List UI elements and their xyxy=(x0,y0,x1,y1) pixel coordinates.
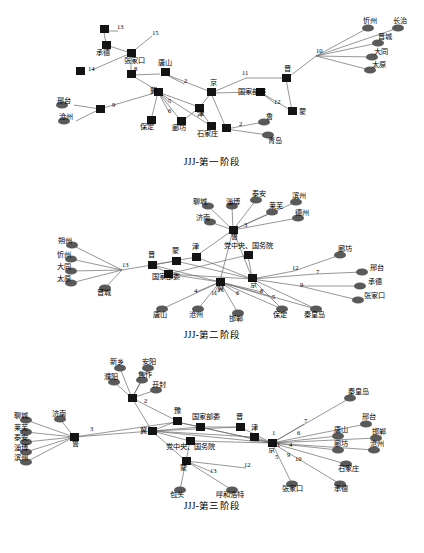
node-label: 石家庄 xyxy=(338,466,359,473)
node-label: 邢台 xyxy=(57,98,71,105)
node-label: 国家部委 xyxy=(238,89,266,96)
node-label: 秦皇岛 xyxy=(304,312,325,319)
node-label: 鲁 xyxy=(266,114,273,121)
edge-label: 2 xyxy=(184,78,187,85)
node-label: 淄博 xyxy=(14,445,28,452)
node-label: 朔州 xyxy=(58,238,72,245)
node-label: 呼和浩特 xyxy=(216,492,244,499)
edge-label: 12 xyxy=(274,99,281,106)
edge-label: 2 xyxy=(144,398,147,405)
figure-root: 承德 13 15 张家口 14 8 唐山 2 冀 5 6 保定 廊坊 石家庄 津… xyxy=(0,0,424,553)
node-label: 张家口 xyxy=(364,293,385,300)
node-label: 蒙 xyxy=(180,465,187,472)
node-label: 聊城 xyxy=(14,413,28,420)
node-label: 廊坊 xyxy=(172,125,186,132)
node-label: 承德 xyxy=(334,486,348,493)
node-label: 新乡 xyxy=(110,359,124,366)
panel-3-canvas: 新乡 安阳 濮阳 焦作 开封 2 秦皇岛 聊城 莱芜 济南 泰安 淄博 滨州 3… xyxy=(0,348,424,498)
edge-label: 9 xyxy=(300,282,303,289)
node-label: 邯郸 xyxy=(372,429,386,436)
node-label: 保定 xyxy=(140,124,154,131)
edge-label: 12 xyxy=(244,462,251,469)
node-label: 安阳 xyxy=(142,359,156,366)
panel-2-canvas: 聊城 淄博 泰安 莱芜 滨州 德州 济南 3 鲁 朔州 忻州 大同 太原 晋城 … xyxy=(0,182,424,327)
node-label: 蒙 xyxy=(172,248,179,255)
edge-label: 12 xyxy=(292,265,299,272)
node-label: 淄博 xyxy=(226,199,240,206)
edge-label: 10 xyxy=(316,48,323,55)
node-label: 京 xyxy=(250,282,257,289)
panel-1-edges xyxy=(74,28,398,135)
node-label: 开封 xyxy=(152,382,166,389)
edge-label: 11 xyxy=(242,70,248,77)
edge-label: 6 xyxy=(297,430,300,437)
node-label: 莱芜 xyxy=(14,425,28,432)
edge-label: 13 xyxy=(117,24,124,31)
node-label: 大同 xyxy=(374,49,388,56)
edge-label: 7 xyxy=(304,418,307,425)
node-label: 滨州 xyxy=(292,193,306,200)
edge-label: 8 xyxy=(260,288,263,295)
node-label: 石家庄 xyxy=(197,131,218,138)
node-label: 晋城 xyxy=(97,290,111,297)
node-label: 沧州 xyxy=(370,441,384,448)
node-label: 晋 xyxy=(148,252,155,259)
node-label: 晋 xyxy=(284,66,291,73)
node-label: 泰安 xyxy=(252,191,266,198)
node-label: 泰安 xyxy=(14,435,28,442)
node-label: 邢台 xyxy=(370,265,384,272)
node-label: 沧州 xyxy=(59,114,73,121)
edge-label: 11 xyxy=(274,442,280,449)
edge-label: 4 xyxy=(194,288,197,295)
node-label: 党中央、国务院 xyxy=(166,444,215,451)
edge-label: 9 xyxy=(112,102,115,109)
node-label: 党中央、国务院 xyxy=(224,243,273,250)
edge-label: 2 xyxy=(239,121,242,128)
node-label: 包头 xyxy=(170,492,184,499)
panel-2-caption: JJJ-第二阶段 xyxy=(0,327,424,341)
node-label: 濮阳 xyxy=(104,374,118,381)
edge-label: 10 xyxy=(295,456,302,463)
node-label: 唐山 xyxy=(153,312,167,319)
node-label: 津 xyxy=(197,111,204,118)
panel-1-canvas: 承德 13 15 张家口 14 8 唐山 2 冀 5 6 保定 廊坊 石家庄 津… xyxy=(0,4,424,154)
node-label: 京 xyxy=(210,80,217,87)
edge-label: 11 xyxy=(211,290,217,297)
node-label: 济南 xyxy=(52,411,66,418)
node-label: 国家部委 xyxy=(152,274,180,281)
panel-1-caption: JJJ-第一阶段 xyxy=(0,154,424,168)
node-label: 太原 xyxy=(372,62,386,69)
edge-label: 5 xyxy=(168,98,171,105)
network-panel-1: 承德 13 15 张家口 14 8 唐山 2 冀 5 6 保定 廊坊 石家庄 津… xyxy=(0,4,424,168)
node-label: 豫 xyxy=(174,408,181,415)
edge-label: 5 xyxy=(272,294,275,301)
node-label: 莱芜 xyxy=(269,203,283,210)
edge-label: 13 xyxy=(122,262,129,269)
node-label: 津 xyxy=(251,425,258,432)
node-label: 冀 xyxy=(150,88,157,95)
node-label: 唐山 xyxy=(158,60,172,67)
node-label: 廊坊 xyxy=(334,441,348,448)
node-label: 晋城 xyxy=(378,34,392,41)
node-label: 津 xyxy=(192,244,199,251)
edge-label: 5 xyxy=(275,454,278,461)
node-label: 忻州 xyxy=(57,252,71,259)
node-label: 聊城 xyxy=(193,199,207,206)
panel-3-graph xyxy=(0,348,424,498)
node-label: 唐山 xyxy=(334,427,348,434)
edge-label: 14 xyxy=(88,66,95,73)
node-label: 承德 xyxy=(96,50,110,57)
edge-label: 3 xyxy=(244,222,247,229)
node-label: 德州 xyxy=(295,210,309,217)
node-label: 冀 xyxy=(140,428,147,435)
node-label: 承德 xyxy=(368,279,382,286)
edge-label: 6 xyxy=(168,108,171,115)
node-label: 滨州 xyxy=(14,455,28,462)
node-label: 济南 xyxy=(196,215,210,222)
node-label: 张家口 xyxy=(282,486,303,493)
node-label: 廊坊 xyxy=(338,246,352,253)
edge-label: 4 xyxy=(289,442,292,449)
node-label: 忻州 xyxy=(363,18,377,25)
node-label: 青岛 xyxy=(268,138,282,145)
node-label: 鲁 xyxy=(72,441,79,448)
